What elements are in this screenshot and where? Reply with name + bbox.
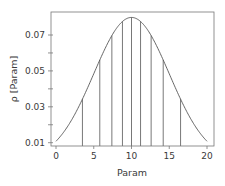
y-tick-label: 0.07 bbox=[25, 30, 45, 40]
y-tick-label: 0.03 bbox=[25, 102, 45, 112]
x-tick-label: 20 bbox=[201, 151, 213, 161]
x-tick-label: 10 bbox=[126, 151, 138, 161]
x-tick-label: 5 bbox=[91, 151, 97, 161]
chart-background bbox=[0, 0, 225, 186]
chart: 05101520 0.010.030.050.07 Param ρ [Param… bbox=[0, 0, 225, 186]
y-axis-label: ρ [Param] bbox=[8, 56, 19, 103]
y-tick-label: 0.05 bbox=[25, 66, 45, 76]
y-tick-label: 0.01 bbox=[25, 138, 45, 148]
x-tick-label: 15 bbox=[164, 151, 175, 161]
x-tick-label: 0 bbox=[53, 151, 59, 161]
x-axis-label: Param bbox=[117, 167, 147, 178]
